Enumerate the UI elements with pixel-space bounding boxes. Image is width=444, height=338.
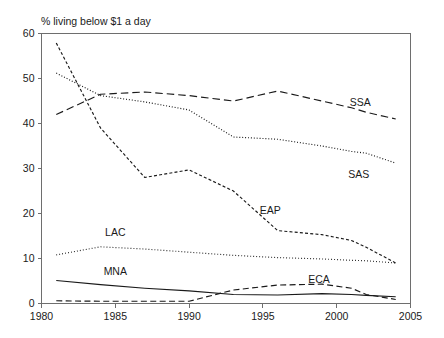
- y-tick-label-60: 60: [23, 27, 35, 39]
- series-label-eap: EAP: [260, 204, 281, 216]
- x-tick-label-2000: 2000: [325, 310, 349, 322]
- series-line-eca: [56, 284, 395, 301]
- y-tick-label-20: 20: [23, 207, 35, 219]
- chart-title: % living below $1 a day: [41, 15, 151, 27]
- series-line-sas: [56, 73, 395, 163]
- x-tick-label-1985: 1985: [104, 310, 128, 322]
- y-tick-label-10: 10: [23, 252, 35, 264]
- series-line-ssa: [56, 91, 395, 119]
- x-tick-label-1995: 1995: [251, 310, 275, 322]
- series-line-mna: [56, 281, 395, 297]
- series-group: [56, 43, 395, 301]
- chart-canvas: 0102030405060198019851990199520002005 SS…: [0, 0, 444, 338]
- series-label-ssa: SSA: [350, 96, 371, 108]
- y-tick-label-40: 40: [23, 117, 35, 129]
- series-label-mna: MNA: [104, 265, 127, 277]
- series-label-sas: SAS: [348, 168, 369, 180]
- y-tick-label-30: 30: [23, 162, 35, 174]
- y-tick-label-0: 0: [29, 297, 35, 309]
- x-tick-label-1990: 1990: [177, 310, 201, 322]
- series-label-eca: ECA: [308, 273, 330, 285]
- poverty-line-chart: 0102030405060198019851990199520002005 SS…: [0, 0, 444, 338]
- y-tick-label-50: 50: [23, 72, 35, 84]
- x-tick-label-1980: 1980: [30, 310, 54, 322]
- series-label-lac: LAC: [105, 226, 126, 238]
- x-tick-label-2005: 2005: [399, 310, 423, 322]
- series-labels-group: SSASASEAPLACMNAECA: [104, 96, 371, 285]
- series-line-lac: [56, 247, 395, 263]
